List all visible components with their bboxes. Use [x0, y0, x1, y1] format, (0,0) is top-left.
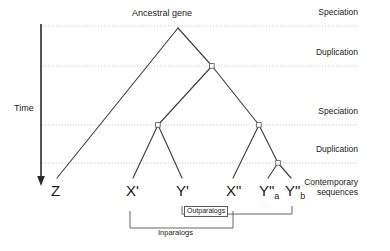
branch-root-to-dup1 — [178, 28, 212, 66]
tip-label-z: Z — [51, 182, 60, 199]
tip-label-x-dprime: X" — [226, 182, 241, 199]
tree-branches — [57, 28, 291, 178]
tip-text-z: Z — [51, 182, 60, 199]
node-speciation-left — [156, 123, 161, 128]
node-duplication-2 — [276, 161, 281, 166]
tip-text-x-prime: X' — [126, 182, 139, 199]
tip-sub-a: a — [274, 191, 279, 201]
branch-dup1-to-spec-left — [158, 66, 212, 125]
tip-text-y-dprime-b: Y" — [285, 182, 300, 199]
node-speciation-right — [257, 123, 262, 128]
time-axis-label: Time — [14, 103, 34, 113]
branch-dup1-to-spec-right — [212, 66, 259, 125]
branch-specleft-to-y1 — [158, 125, 182, 178]
branch-specright-to-x2 — [233, 125, 259, 178]
branch-root-to-z — [57, 28, 178, 178]
event-label-duplication-1: Duplication — [258, 48, 358, 58]
tip-text-x-dprime: X" — [226, 182, 241, 199]
tip-text-y-prime: Y' — [176, 182, 189, 199]
contemporary-line-2: sequences — [317, 187, 358, 197]
tip-label-y-dprime-b: Y"b — [285, 182, 305, 199]
ancestral-gene-label: Ancestral gene — [132, 8, 192, 18]
outparalogs-label: Outparalogs — [184, 206, 228, 217]
event-label-duplication-2: Duplication — [258, 145, 358, 155]
event-label-speciation-1: Speciation — [258, 8, 358, 18]
tip-label-y-dprime-a: Y"a — [259, 182, 279, 199]
node-duplication-1 — [210, 64, 215, 69]
branch-specleft-to-x1 — [133, 125, 158, 178]
time-axis-arrow — [37, 24, 45, 186]
inparalogs-label: Inparalogs — [158, 229, 193, 238]
tip-label-x-prime: X' — [126, 182, 139, 199]
event-label-speciation-2: Speciation — [258, 107, 358, 117]
tip-label-y-prime: Y' — [176, 182, 189, 199]
tip-text-y-dprime-a: Y" — [259, 182, 274, 199]
tip-sub-b: b — [300, 191, 305, 201]
branch-specright-to-dup2 — [259, 125, 278, 163]
contemporary-line-1: Contemporary — [304, 177, 358, 187]
